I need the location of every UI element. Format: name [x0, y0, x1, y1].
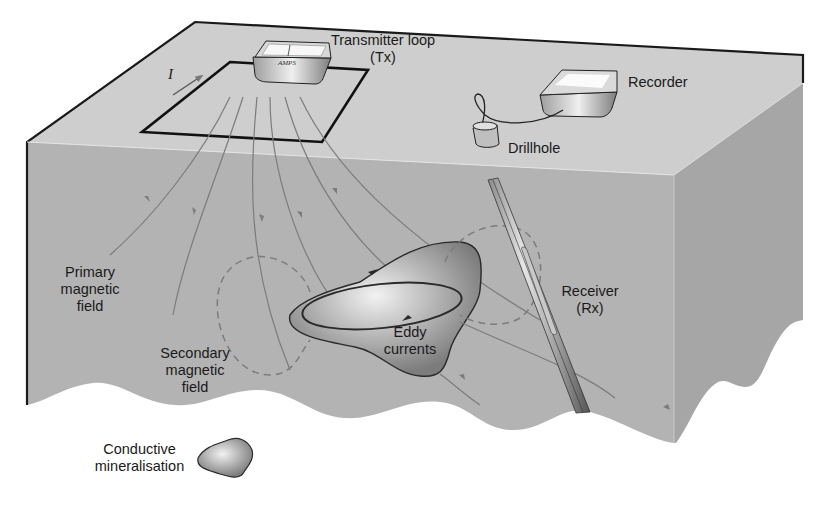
diagram-canvas: AMPS	[0, 0, 832, 507]
drillhole-label: Drillhole	[508, 140, 560, 157]
drillhole-collar-icon	[473, 122, 499, 147]
legend-ore-icon	[198, 438, 253, 477]
recorder-label: Recorder	[628, 74, 688, 91]
mineralisation-legend-label: Conductive mineralisation	[82, 441, 197, 475]
current-symbol: I	[168, 66, 173, 83]
em-survey-diagram: AMPS	[0, 0, 832, 507]
transmitter-label: Transmitter loop (Tx)	[308, 32, 458, 66]
primary-field-label: Primary magnetic field	[50, 264, 130, 315]
eddy-currents-label: Eddy currents	[370, 324, 450, 358]
receiver-label: Receiver (Rx)	[550, 283, 630, 317]
amps-text: AMPS	[277, 59, 296, 67]
secondary-field-label: Secondary magnetic field	[145, 345, 245, 396]
